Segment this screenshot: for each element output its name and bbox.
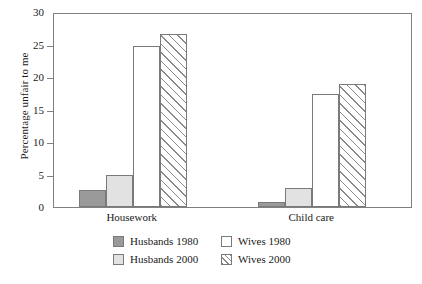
- y-tick-label: 10: [8, 137, 44, 148]
- y-tick-label: 0: [8, 202, 44, 213]
- bar-wives-1980-housework: [133, 46, 160, 207]
- bar-husbands-2000-child-care: [285, 188, 312, 208]
- plot-area: [53, 13, 412, 208]
- chart-legend: Husbands 1980Wives 1980Husbands 2000Wive…: [113, 232, 345, 268]
- legend-swatch-icon: [221, 254, 232, 265]
- legend-item-husbands-2000: Husbands 2000: [113, 253, 221, 265]
- y-tick-label: 30: [8, 7, 44, 18]
- legend-item-husbands-1980: Husbands 1980: [113, 235, 221, 247]
- bar-husbands-1980-housework: [79, 190, 106, 207]
- x-category-label: Housework: [48, 211, 216, 224]
- legend-swatch-icon: [113, 254, 124, 265]
- bar-husbands-2000-housework: [106, 175, 133, 207]
- legend-label: Husbands 1980: [130, 235, 198, 247]
- y-tick-label: 20: [8, 72, 44, 83]
- legend-swatch-icon: [113, 236, 124, 247]
- legend-label: Wives 2000: [238, 253, 290, 265]
- bar-wives-2000-housework: [160, 34, 187, 207]
- legend-item-wives-1980: Wives 1980: [221, 235, 345, 247]
- y-tick-label: 25: [8, 40, 44, 51]
- x-category-label: Child care: [227, 211, 395, 224]
- bar-wives-1980-child-care: [312, 94, 339, 207]
- bar-chart-figure: Percentage unfair to me 051015202530 Hou…: [0, 0, 422, 284]
- legend-swatch-icon: [221, 236, 232, 247]
- bar-husbands-1980-child-care: [258, 202, 285, 207]
- y-tick-label: 15: [8, 105, 44, 116]
- legend-item-wives-2000: Wives 2000: [221, 253, 345, 265]
- bar-wives-2000-child-care: [339, 84, 366, 207]
- legend-label: Husbands 2000: [130, 253, 198, 265]
- legend-label: Wives 1980: [238, 235, 290, 247]
- y-tick-label: 5: [8, 170, 44, 181]
